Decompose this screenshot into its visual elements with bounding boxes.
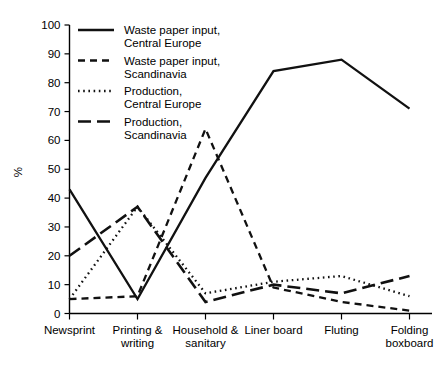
x-category-label-5-1: boxboard — [386, 337, 434, 349]
x-category-label-0-0: Newsprint — [44, 324, 96, 336]
x-category-label-5-0: Folding — [391, 324, 429, 336]
series-line-0 — [70, 60, 410, 299]
x-category-label-1-1: writing — [120, 337, 154, 349]
y-tick-label-20: 20 — [48, 250, 61, 262]
y-tick-label-0: 0 — [54, 308, 60, 320]
x-category-label-4-0: Fluting — [324, 324, 359, 336]
x-category-label-2-0: Household & — [173, 324, 239, 336]
legend-label-3-line1: Production, — [124, 116, 182, 128]
y-tick-label-50: 50 — [48, 163, 61, 175]
legend-label-0-line1: Waste paper input, — [124, 24, 220, 36]
x-axis-category-labels: NewsprintPrinting &writingHousehold &san… — [44, 324, 434, 349]
x-axis-ticks — [70, 314, 410, 320]
y-tick-label-10: 10 — [48, 279, 61, 291]
line-chart: 0102030405060708090100 NewsprintPrinting… — [0, 0, 448, 365]
y-tick-label-40: 40 — [48, 192, 61, 204]
y-tick-label-70: 70 — [48, 106, 61, 118]
y-tick-label-80: 80 — [48, 77, 61, 89]
y-tick-label-100: 100 — [41, 19, 60, 31]
x-category-label-2-1: sanitary — [185, 337, 226, 349]
chart-legend: Waste paper input,Central EuropeWaste pa… — [78, 24, 220, 141]
chart-svg: 0102030405060708090100 NewsprintPrinting… — [0, 0, 448, 365]
legend-label-2-line2: Central Europe — [124, 98, 201, 110]
legend-label-1-line2: Scandinavia — [124, 68, 187, 80]
series-lines — [70, 60, 410, 311]
legend-label-2-line1: Production, — [124, 85, 182, 97]
legend-label-0-line2: Central Europe — [124, 37, 201, 49]
y-axis-title: % — [12, 167, 24, 177]
legend-label-3-line2: Scandinavia — [124, 129, 187, 141]
series-line-3 — [70, 207, 410, 302]
legend-label-1-line1: Waste paper input, — [124, 55, 220, 67]
x-category-label-3-0: Liner board — [244, 324, 302, 336]
x-category-label-1-0: Printing & — [113, 324, 163, 336]
y-tick-label-90: 90 — [48, 48, 61, 60]
y-tick-label-60: 60 — [48, 134, 61, 146]
y-axis-ticks — [65, 25, 70, 314]
y-axis-tick-labels: 0102030405060708090100 — [41, 19, 60, 320]
y-tick-label-30: 30 — [48, 221, 61, 233]
